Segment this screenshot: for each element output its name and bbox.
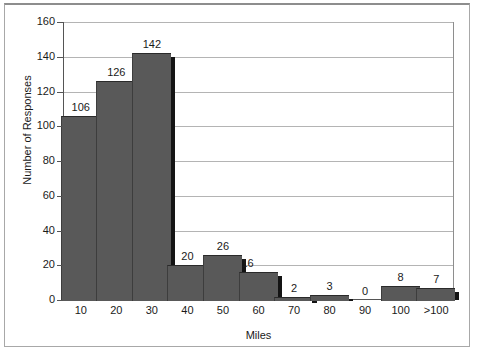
y-axis-tick-label: 0 (9, 294, 55, 305)
bar[interactable] (416, 288, 455, 301)
bar-value-label: 3 (318, 281, 342, 292)
bar-value-label: 106 (69, 102, 93, 113)
y-axis-tick-mark (57, 265, 63, 266)
x-axis-tick-label: 60 (239, 304, 279, 316)
bar[interactable] (61, 116, 100, 301)
figure-frame: 020406080100120140160 Number of Response… (4, 3, 470, 347)
bar-value-label: 7 (424, 274, 448, 285)
y-axis-tick-mark (57, 161, 63, 162)
x-axis-tick-label: 50 (203, 304, 243, 316)
x-axis-tick-label: 90 (345, 304, 385, 316)
y-axis-tick-mark (57, 196, 63, 197)
x-axis-tick-label: 100 (381, 304, 421, 316)
x-axis-tick-label: 40 (167, 304, 207, 316)
gridline (64, 57, 453, 58)
bar-value-label: 8 (389, 272, 413, 283)
x-axis-tick-label: 80 (310, 304, 350, 316)
y-axis-tick-mark (57, 57, 63, 58)
y-axis-tick-mark (57, 126, 63, 127)
x-axis-tick-label: 10 (61, 304, 101, 316)
bar-value-label: 126 (104, 67, 128, 78)
x-axis-tick-label: >100 (416, 304, 456, 316)
bar-value-label: 2 (282, 283, 306, 294)
y-axis-tick-label: 20 (9, 259, 55, 270)
bar[interactable] (381, 286, 420, 301)
bar-value-label: 16 (236, 258, 260, 269)
gridline (64, 22, 453, 23)
y-axis-tick-mark (57, 22, 63, 23)
bar[interactable] (167, 265, 206, 301)
y-axis-tick-label: 160 (9, 16, 55, 27)
bar-value-label: 20 (175, 251, 199, 262)
x-axis-tick-label: 30 (132, 304, 172, 316)
bar[interactable] (239, 272, 278, 301)
y-axis-title: Number of Responses (21, 45, 33, 215)
bar-value-label: 142 (140, 39, 164, 50)
bar-value-label: 0 (353, 286, 377, 297)
x-axis-tick-label: 70 (274, 304, 314, 316)
x-axis-title: Miles (63, 329, 454, 341)
bar[interactable] (274, 297, 313, 301)
bar-chart: 020406080100120140160 Number of Response… (5, 5, 471, 349)
bar[interactable] (96, 81, 135, 301)
x-axis-tick-label: 20 (96, 304, 136, 316)
bar[interactable] (132, 53, 171, 301)
y-axis-tick-mark (57, 300, 63, 301)
y-axis-tick-label: 40 (9, 225, 55, 236)
y-axis-tick-mark (57, 92, 63, 93)
bar-value-label: 26 (211, 241, 235, 252)
y-axis-tick-mark (57, 231, 63, 232)
bar[interactable] (310, 295, 349, 301)
